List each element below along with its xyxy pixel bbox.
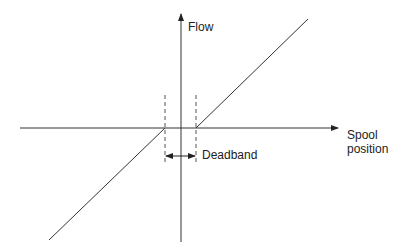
deadband-diagram <box>0 0 401 251</box>
x-axis-label-line2: position <box>347 142 388 156</box>
deadband-label: Deadband <box>202 148 257 162</box>
x-axis-label-line1: Spool <box>347 128 378 142</box>
flow-line-positive <box>196 19 308 128</box>
flow-line-negative <box>49 128 165 240</box>
y-axis-label: Flow <box>188 20 213 34</box>
